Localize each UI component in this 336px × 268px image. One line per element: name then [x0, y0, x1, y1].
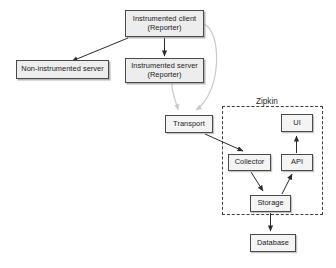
node-database-label: Database — [251, 239, 295, 248]
node-instrumented-server-label: Instrumented server (Reporter) — [126, 62, 203, 79]
node-noninstrumented-server-label: Non-instrumented server — [17, 65, 108, 74]
node-storage-label: Storage — [251, 199, 290, 208]
node-database[interactable]: Database — [250, 234, 296, 252]
diagram-canvas: Zipkin — [0, 0, 336, 268]
node-ui[interactable]: UI — [281, 114, 313, 132]
node-collector-label: Collector — [229, 158, 270, 167]
group-zipkin-label: Zipkin — [254, 97, 280, 106]
node-noninstrumented-server[interactable]: Non-instrumented server — [16, 60, 109, 79]
node-ui-label: UI — [282, 119, 312, 128]
node-transport-label: Transport — [166, 120, 212, 129]
node-api-label: API — [282, 158, 312, 167]
node-instrumented-client[interactable]: Instrumented client (Reporter) — [125, 10, 204, 37]
node-collector[interactable]: Collector — [228, 154, 271, 171]
node-instrumented-client-label: Instrumented client (Reporter) — [126, 15, 203, 32]
node-transport[interactable]: Transport — [165, 115, 213, 133]
node-api[interactable]: API — [281, 154, 313, 171]
node-storage[interactable]: Storage — [250, 195, 291, 212]
node-instrumented-server[interactable]: Instrumented server (Reporter) — [125, 58, 204, 83]
edge-client-to-noninstrumented-server — [72, 38, 128, 61]
edge-instrumented-server-to-transport — [172, 84, 178, 110]
